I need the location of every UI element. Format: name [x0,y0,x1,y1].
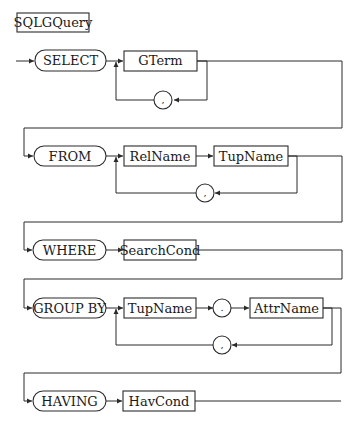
row-having: HAVING HavCond [33,391,341,411]
nonterminal-relname: RelName [130,149,191,164]
keyword-from: FROM [49,149,92,164]
row-select: SELECT GTerm , [16,50,342,156]
separator-dot: . [220,302,223,313]
nonterminal-attrname: AttrName [253,301,319,316]
keyword-select: SELECT [43,53,98,68]
nonterminal-tupname: TupName [128,301,193,316]
row-group-by: GROUP BY TupName . AttrName , [24,298,341,401]
syntax-diagram: SQLGQuery SELECT GTerm , FROM RelName Tu… [0,0,361,437]
separator-comma: , [161,94,164,105]
diagram-title: SQLGQuery [14,15,94,30]
keyword-where: WHERE [43,243,96,258]
separator-comma: , [203,187,206,198]
keyword-having: HAVING [41,394,97,409]
diagram-title-box: SQLGQuery [14,13,94,32]
row-from: FROM RelName TupName , [24,146,342,250]
nonterminal-havcond: HavCond [129,394,190,409]
nonterminal-tupname: TupName [219,149,284,164]
nonterminal-gterm: GTerm [138,53,182,68]
nonterminal-searchcond: SearchCond [120,243,201,258]
separator-comma: , [220,339,223,350]
keyword-groupby: GROUP BY [33,301,106,316]
